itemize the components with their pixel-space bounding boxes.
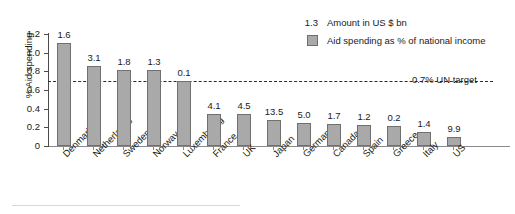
bar-group: 13.5Japan xyxy=(259,0,289,214)
y-axis-tick-label: 0.8 xyxy=(6,66,40,76)
bar-group: 0.2Greece xyxy=(379,0,409,214)
y-axis-tick-label: 0.6 xyxy=(6,85,40,95)
bar-value-label: 9.9 xyxy=(433,124,475,134)
bar-group: 3.1Netherlands xyxy=(79,0,109,214)
y-axis-tick-label: 0 xyxy=(6,141,40,151)
bar-group: 1.4Italy xyxy=(409,0,439,214)
bar-group: 1.7Canada xyxy=(319,0,349,214)
bottom-divider xyxy=(12,205,240,206)
bar xyxy=(87,66,101,146)
y-axis-tick-label: 1.2 xyxy=(6,29,40,39)
bar xyxy=(177,81,191,146)
y-axis-tick-label: 0.4 xyxy=(6,104,40,114)
y-axis-tick-label: 1.0 xyxy=(6,48,40,58)
bar xyxy=(147,70,161,146)
aid-spending-bar-chart: 1.3 Amount in US $ bn Aid spending as % … xyxy=(0,0,515,214)
bar xyxy=(117,70,131,146)
bar-group: 1.3Norway xyxy=(139,0,169,214)
bar-group: 9.9US xyxy=(439,0,469,214)
bar-group: 5.0Germany xyxy=(289,0,319,214)
bar-group: 1.6Denmark xyxy=(49,0,79,214)
bar-group: 1.8Sweden xyxy=(109,0,139,214)
bar xyxy=(57,43,71,146)
plot-area: % Aid spending 1.21.00.80.60.40.20 0.7% … xyxy=(0,0,515,214)
bar-group: 1.2Spain xyxy=(349,0,379,214)
y-axis-tick-label: 0.2 xyxy=(6,122,40,132)
